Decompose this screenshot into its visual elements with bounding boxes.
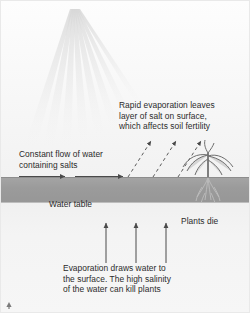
label-rapid-evaporation: Rapid evaporation leaves layer of salt o… [119,100,247,132]
dying-plant-icon [183,140,233,177]
diagram-canvas: Rapid evaporation leaves layer of salt o… [0,0,250,313]
vertical-up-arrow-icon [106,223,166,263]
corner-arrow-mark-icon [6,302,12,309]
label-evaporation-draws: Evaporation draws water to the surface. … [63,263,223,295]
label-plants-die: Plants die [181,216,218,227]
plant-roots-icon [196,178,220,203]
label-water-table: Water table [49,199,92,210]
label-constant-flow: Constant flow of water containing salts [19,149,139,170]
